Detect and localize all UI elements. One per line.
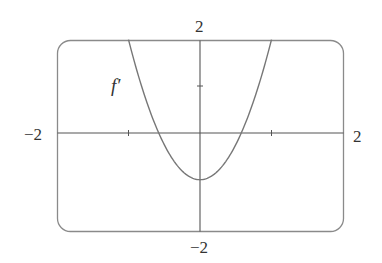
- y-min-label: −2: [190, 239, 208, 256]
- curve-label: f′: [111, 76, 120, 95]
- x-min-label: −2: [24, 126, 42, 143]
- chart-plot: [0, 0, 382, 263]
- x-max-label: 2: [353, 128, 362, 145]
- y-max-label: 2: [195, 18, 204, 35]
